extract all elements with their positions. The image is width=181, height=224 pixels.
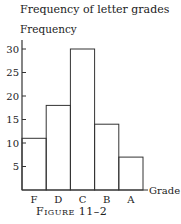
y-tick-label-20: 20 bbox=[6, 91, 19, 102]
y-tick-label-25: 25 bbox=[6, 67, 19, 78]
y-ticks: 51015202530 bbox=[6, 44, 26, 173]
bars bbox=[22, 49, 143, 190]
y-tick-label-30: 30 bbox=[6, 44, 19, 55]
x-tick-label-D: D bbox=[54, 194, 62, 205]
y-tick-label-15: 15 bbox=[6, 114, 19, 125]
x-axis-label: Grade bbox=[149, 185, 180, 196]
bar-B bbox=[95, 124, 119, 190]
bar-C bbox=[70, 49, 94, 190]
x-tick-label-C: C bbox=[79, 194, 87, 205]
bar-D bbox=[46, 105, 70, 190]
axes bbox=[22, 40, 148, 190]
y-tick-label-5: 5 bbox=[13, 161, 19, 172]
bar-A bbox=[119, 157, 143, 190]
bar-F bbox=[22, 138, 46, 190]
y-tick-label-10: 10 bbox=[6, 138, 19, 149]
x-tick-label-F: F bbox=[31, 194, 38, 205]
y-axis-label: Frequency bbox=[20, 23, 77, 35]
x-tick-label-B: B bbox=[103, 194, 110, 205]
x-tick-label-A: A bbox=[126, 194, 135, 205]
histogram-chart: Frequency 51015202530 FDCBA Grade bbox=[0, 0, 181, 224]
x-tick-labels: FDCBA bbox=[31, 194, 136, 205]
figure-caption: Figure 11–2 bbox=[36, 205, 107, 218]
